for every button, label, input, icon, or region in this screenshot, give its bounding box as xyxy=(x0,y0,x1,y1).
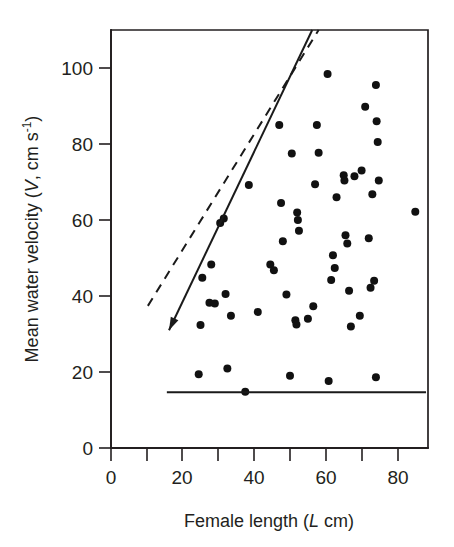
x-ticklabel-60: 60 xyxy=(315,467,336,488)
data-point xyxy=(197,321,205,329)
data-point xyxy=(309,302,317,310)
data-point xyxy=(207,260,215,268)
regression-line-arrowhead xyxy=(169,317,178,331)
data-point xyxy=(368,190,376,198)
data-point xyxy=(279,237,287,245)
data-point xyxy=(361,103,369,111)
data-point xyxy=(293,208,301,216)
data-point xyxy=(329,251,337,259)
x-ticklabel-20: 20 xyxy=(171,467,192,488)
data-point xyxy=(245,181,253,189)
data-point xyxy=(331,264,339,272)
data-point xyxy=(277,199,285,207)
y-ticklabel-20: 20 xyxy=(72,362,93,383)
data-points-layer xyxy=(195,70,420,396)
y-axis: 0 20 40 60 80 100 xyxy=(61,30,111,459)
data-point xyxy=(340,176,348,184)
data-point xyxy=(343,240,351,248)
x-ticklabel-0: 0 xyxy=(106,467,117,488)
data-point xyxy=(195,370,203,378)
data-point xyxy=(327,276,335,284)
x-ticklabel-40: 40 xyxy=(243,467,264,488)
data-point xyxy=(333,193,341,201)
frame-top-right-border xyxy=(111,30,428,448)
data-point xyxy=(350,172,358,180)
data-point xyxy=(292,321,300,329)
scatter-plot: 0 20 40 60 80 100 0 20 40 60 80 xyxy=(0,0,454,547)
data-point xyxy=(288,150,296,158)
data-point xyxy=(227,312,235,320)
data-point xyxy=(313,121,321,129)
y-ticklabel-60: 60 xyxy=(72,210,93,231)
x-axis-label: Female length (L cm) xyxy=(184,511,354,531)
data-point xyxy=(223,365,231,373)
data-point xyxy=(367,284,375,292)
dashed-regression-line xyxy=(148,30,319,306)
y-ticklabel-80: 80 xyxy=(72,134,93,155)
y-axis-label: Mean water velocity (V, cm s-1) xyxy=(20,116,42,363)
data-point xyxy=(374,138,382,146)
y-ticklabel-40: 40 xyxy=(72,286,93,307)
data-point xyxy=(370,277,378,285)
data-point xyxy=(282,290,290,298)
data-point xyxy=(304,315,312,323)
data-point xyxy=(311,180,319,188)
data-point xyxy=(372,373,380,381)
x-axis: 0 20 40 60 80 xyxy=(106,448,428,488)
data-point xyxy=(286,372,294,380)
data-point xyxy=(270,266,278,274)
data-point xyxy=(254,308,262,316)
figure-container: 0 20 40 60 80 100 0 20 40 60 80 xyxy=(0,0,454,547)
data-point xyxy=(375,176,383,184)
data-point xyxy=(411,208,419,216)
data-point xyxy=(211,300,219,308)
x-ticklabel-80: 80 xyxy=(387,467,408,488)
data-point xyxy=(345,287,353,295)
data-point xyxy=(295,227,303,235)
data-point xyxy=(222,290,230,298)
y-ticklabel-100: 100 xyxy=(61,58,93,79)
data-point xyxy=(372,81,380,89)
data-point xyxy=(373,117,381,125)
data-point xyxy=(356,312,364,320)
data-point xyxy=(294,216,302,224)
plot-frame xyxy=(111,30,428,448)
data-point xyxy=(324,70,332,78)
data-point xyxy=(347,322,355,330)
data-point xyxy=(315,149,323,157)
data-point xyxy=(275,121,283,129)
y-ticklabel-0: 0 xyxy=(82,438,93,459)
data-point xyxy=(341,231,349,239)
data-point xyxy=(198,274,206,282)
data-point xyxy=(365,234,373,242)
data-point xyxy=(325,377,333,385)
solid-regression-line xyxy=(169,30,312,330)
data-point xyxy=(358,167,366,175)
trend-lines-layer xyxy=(148,30,426,392)
